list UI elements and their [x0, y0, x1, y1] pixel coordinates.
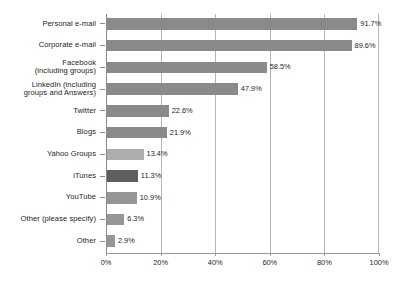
bar	[107, 83, 238, 95]
bar-value-label: 6.3%	[127, 215, 144, 223]
bar-value-label: 89.6%	[355, 42, 376, 50]
bar-value-label: 58.5%	[270, 63, 291, 71]
bar-row: iTunes11.3%	[0, 166, 403, 186]
bar	[107, 18, 357, 30]
x-tick-label: 60%	[262, 258, 277, 267]
bar	[107, 40, 352, 52]
x-tick-mark	[106, 253, 107, 256]
bar	[107, 105, 169, 117]
bar	[107, 192, 137, 204]
bar-and-value: 6.3%	[107, 210, 144, 230]
x-tick-label: 40%	[208, 258, 223, 267]
x-tick-mark	[270, 253, 271, 256]
bar-row: Blogs21.9%	[0, 123, 403, 143]
bar-row: Yahoo Groups13.4%	[0, 144, 403, 164]
category-tick-mark	[100, 154, 105, 155]
category-label: LinkedIn (including groups and Answers)	[0, 81, 96, 98]
x-tick-mark	[379, 253, 380, 256]
category-tick-mark	[100, 45, 105, 46]
bar-value-label: 2.9%	[118, 237, 135, 245]
bar-value-label: 22.6%	[172, 107, 193, 115]
category-label: YouTube	[0, 193, 96, 202]
bar	[107, 235, 115, 247]
bar	[107, 214, 124, 226]
bar-value-label: 11.3%	[141, 172, 161, 180]
category-tick-mark	[100, 241, 105, 242]
category-label: iTunes	[0, 172, 96, 181]
bar-row: LinkedIn (including groups and Answers)4…	[0, 79, 403, 99]
bar-and-value: 11.3%	[107, 166, 161, 186]
x-tick-label: 80%	[317, 258, 332, 267]
category-label: Other (please specify)	[0, 215, 96, 224]
bar-row: Personal e-mail91.7%	[0, 14, 403, 34]
category-label: Twitter	[0, 107, 96, 116]
x-tick-label: 100%	[370, 258, 389, 267]
bar-row: Corporate e-mail89.6%	[0, 36, 403, 56]
bar	[107, 170, 138, 182]
bar-and-value: 21.9%	[107, 123, 191, 143]
bar-value-label: 21.9%	[170, 129, 191, 137]
bar-row: Other (please specify)6.3%	[0, 210, 403, 230]
bar-and-value: 22.6%	[107, 101, 193, 121]
bar-value-label: 13.4%	[147, 150, 168, 158]
category-label: Other	[0, 237, 96, 246]
bar-chart: Personal e-mail91.7%Corporate e-mail89.6…	[0, 0, 403, 287]
category-tick-mark	[100, 89, 105, 90]
category-tick-mark	[100, 23, 105, 24]
bar-row: YouTube10.9%	[0, 188, 403, 208]
bar-and-value: 10.9%	[107, 188, 161, 208]
category-label: Blogs	[0, 128, 96, 137]
category-tick-mark	[100, 219, 105, 220]
x-tick-label: 20%	[153, 258, 168, 267]
category-tick-mark	[100, 197, 105, 198]
bar-and-value: 2.9%	[107, 231, 135, 251]
bar-and-value: 47.9%	[107, 79, 262, 99]
bar	[107, 149, 144, 161]
x-tick-mark	[324, 253, 325, 256]
x-tick-label: 0%	[101, 258, 112, 267]
bar-row: Other2.9%	[0, 231, 403, 251]
bar-value-label: 47.9%	[241, 85, 262, 93]
bar-value-label: 10.9%	[140, 194, 161, 202]
category-label: Yahoo Groups	[0, 150, 96, 159]
bar-and-value: 13.4%	[107, 144, 168, 164]
category-tick-mark	[100, 67, 105, 68]
bar	[107, 127, 167, 139]
category-label: Facebook (including groups)	[0, 59, 96, 76]
bar-and-value: 58.5%	[107, 57, 291, 77]
bar-value-label: 91.7%	[360, 20, 381, 28]
bar-row: Twitter22.6%	[0, 101, 403, 121]
x-tick-mark	[215, 253, 216, 256]
bar-row: Facebook (including groups)58.5%	[0, 57, 403, 77]
bar	[107, 62, 267, 74]
category-tick-mark	[100, 132, 105, 133]
x-axis-ticks: 0%20%40%60%80%100%	[0, 253, 403, 275]
bar-and-value: 91.7%	[107, 14, 381, 34]
bar-and-value: 89.6%	[107, 36, 376, 56]
category-tick-mark	[100, 110, 105, 111]
category-label: Corporate e-mail	[0, 41, 96, 50]
x-tick-mark	[161, 253, 162, 256]
category-label: Personal e-mail	[0, 20, 96, 29]
bar-rows: Personal e-mail91.7%Corporate e-mail89.6…	[0, 14, 403, 253]
category-tick-mark	[100, 176, 105, 177]
